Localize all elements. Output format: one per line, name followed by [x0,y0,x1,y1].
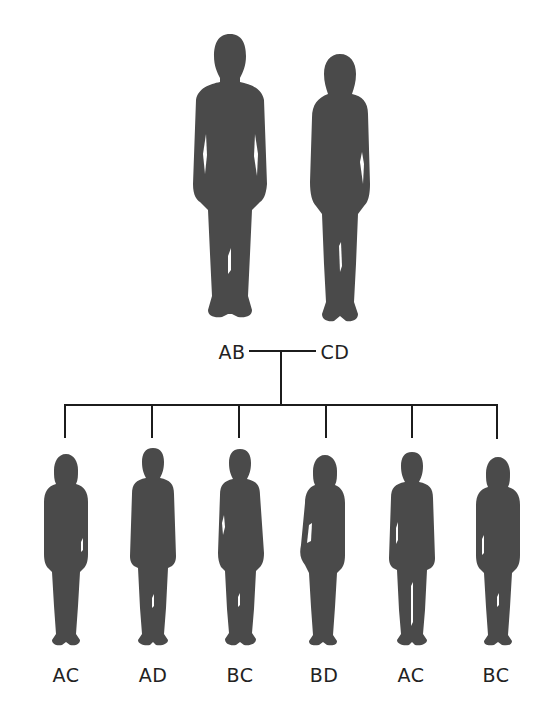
child-genotype-label: BC [483,664,510,686]
child-genotype-label: BD [310,664,339,686]
boy-silhouette-icon [387,452,437,646]
descent-line [280,350,282,406]
child-genotype-label: AC [398,664,425,686]
child-genotype-label: AD [139,664,168,686]
child-drop-line [325,405,327,438]
female-adult-silhouette-icon [308,54,372,324]
male-adult-silhouette-icon [190,34,270,324]
mating-line [249,350,316,352]
child-drop-line [64,404,66,438]
girl-silhouette-icon [42,454,90,646]
girl-silhouette-icon [297,455,347,646]
sibship-line [64,404,498,406]
father-genotype-label: AB [218,341,245,363]
child-drop-line [496,405,498,439]
boy-silhouette-icon [216,449,266,646]
girl-silhouette-icon [475,457,521,646]
mother-genotype-label: CD [321,341,350,363]
child-drop-line [151,405,153,438]
child-genotype-label: AC [53,664,80,686]
child-drop-line [411,405,413,438]
inheritance-diagram: AB CD AC AD BC [0,0,546,709]
child-drop-line [238,405,240,438]
child-genotype-label: BC [227,664,254,686]
boy-silhouette-icon [128,448,178,646]
